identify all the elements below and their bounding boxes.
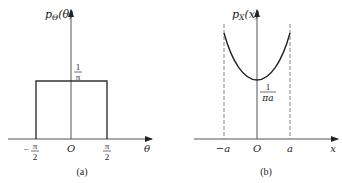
x-axis-label-b: x bbox=[330, 143, 336, 154]
diagram-canvas: pΘ(θ) 1 π − π 2 O π 2 θ (a) bbox=[0, 0, 342, 183]
caption-b: (b) bbox=[260, 166, 272, 178]
svg-text:2: 2 bbox=[33, 152, 38, 162]
tick-label-pi-half: π 2 bbox=[103, 141, 111, 162]
y-axis-label-b: pX(x) bbox=[232, 8, 259, 22]
svg-text:π: π bbox=[76, 72, 81, 82]
svg-text:πa: πa bbox=[261, 93, 273, 103]
tick-label-neg-a: −a bbox=[216, 143, 230, 154]
svg-text:−: − bbox=[23, 144, 28, 154]
y-axis-label-a: pΘ(θ) bbox=[45, 8, 73, 22]
min-label-b: 1 πa bbox=[260, 82, 276, 103]
figure-b: pX(x) 1 πa −a O a x (b) bbox=[194, 8, 338, 178]
figure-a: pΘ(θ) 1 π − π 2 O π 2 θ (a) bbox=[8, 8, 152, 178]
caption-a: (a) bbox=[76, 166, 87, 178]
origin-label-a: O bbox=[67, 143, 75, 154]
x-axis-label-a: θ bbox=[144, 143, 150, 154]
level-label-a: 1 π bbox=[74, 62, 82, 82]
svg-text:π: π bbox=[33, 141, 38, 151]
svg-text:1: 1 bbox=[76, 62, 81, 72]
svg-text:π: π bbox=[105, 141, 110, 151]
svg-text:2: 2 bbox=[105, 152, 110, 162]
origin-label-b: O bbox=[253, 143, 261, 154]
tick-label-neg-pi-half: − π 2 bbox=[23, 141, 39, 162]
tick-label-a: a bbox=[287, 143, 293, 154]
svg-text:1: 1 bbox=[266, 82, 271, 92]
